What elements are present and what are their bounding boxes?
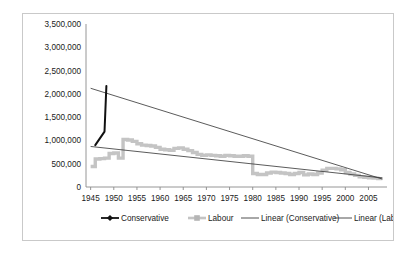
x-axis-tick-label: 1995 (313, 194, 332, 203)
legend-item[interactable]: Conservative (101, 214, 169, 223)
x-axis-tick-label: 1985 (267, 194, 286, 203)
y-axis-tick-label: 2,000,000 (45, 90, 82, 99)
legend-swatch-diamond-icon (107, 215, 113, 221)
x-axis-tick-label: 1970 (197, 194, 216, 203)
x-axis-tick-label: 1965 (174, 194, 193, 203)
legend-label: Conservative (121, 214, 169, 223)
y-axis-tick-label: 3,000,000 (45, 43, 82, 52)
legend-label: Linear (Conservative) (261, 214, 340, 223)
chart-canvas: 0500,0001,000,0001,500,0002,000,0002,500… (23, 14, 393, 240)
y-axis-tick-label: 500,000 (51, 160, 81, 169)
trendline-linear-labour (91, 146, 383, 177)
x-axis-tick-label: 1945 (82, 194, 101, 203)
x-axis-tick-label: 1955 (128, 194, 147, 203)
series-labour-line (91, 140, 383, 179)
chart-plot-area: 0500,0001,000,0001,500,0002,000,0002,500… (23, 14, 393, 240)
legend-item[interactable]: Linear (Conservative) (241, 214, 340, 223)
x-axis-tick-label: 1960 (151, 194, 170, 203)
x-axis-tick-label: 1980 (244, 194, 263, 203)
y-axis-tick-label: 0 (76, 183, 81, 192)
x-axis-tick-label: 2000 (336, 194, 355, 203)
series-conservative-line (95, 86, 106, 145)
chart-frame: 0500,0001,000,0001,500,0002,000,0002,500… (22, 13, 394, 241)
trendline-linear-conservative (91, 88, 383, 179)
y-axis-tick-label: 3,500,000 (45, 20, 82, 29)
x-axis-tick-label: 2005 (359, 194, 378, 203)
y-axis-tick-label: 2,500,000 (45, 67, 82, 76)
y-axis-tick-label: 1,500,000 (45, 113, 82, 122)
legend-swatch-square-icon (194, 215, 200, 221)
legend-item[interactable]: Labour (188, 214, 234, 223)
legend-label: Labour (208, 214, 234, 223)
y-axis-tick-label: 1,000,000 (45, 136, 82, 145)
x-axis-tick-label: 1990 (290, 194, 309, 203)
legend-item[interactable]: Linear (Labour) (334, 214, 393, 223)
x-axis-tick-label: 1950 (105, 194, 124, 203)
x-axis-tick-label: 1975 (220, 194, 239, 203)
legend-label: Linear (Labour) (354, 214, 393, 223)
